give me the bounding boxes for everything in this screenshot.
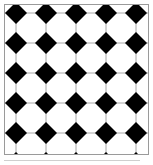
diamond-tile [65, 152, 87, 154]
diamond-tile [95, 92, 117, 114]
diamond-tile [5, 62, 27, 84]
diamond-tile [35, 122, 57, 144]
diamond-tile [65, 5, 87, 24]
tile-pattern-svg [5, 5, 148, 154]
diamond-tile [125, 62, 147, 84]
diamond-tile [35, 92, 57, 114]
diamond-tile [95, 62, 117, 84]
diamond-tile [5, 5, 27, 24]
diamond-tile [5, 122, 27, 144]
diamond-tile [125, 5, 147, 24]
diamond-tile [125, 92, 147, 114]
tile-pattern-figure [0, 0, 153, 165]
tile-field-frame [4, 4, 149, 155]
diamond-tile [5, 152, 27, 154]
diamond-tile [35, 152, 57, 154]
diamond-tile [65, 92, 87, 114]
diamond-tile [95, 152, 117, 154]
diamond-tile [95, 32, 117, 54]
diamond-tile [5, 92, 27, 114]
diamond-tile [35, 5, 57, 24]
diamond-tile [65, 62, 87, 84]
tile-surface [5, 5, 148, 154]
diamond-tile [125, 152, 147, 154]
diamond-tile [65, 32, 87, 54]
diamond-tile [95, 122, 117, 144]
diamond-tile [125, 32, 147, 54]
diamond-tile [35, 32, 57, 54]
diamond-tile [125, 122, 147, 144]
diamond-tile [5, 32, 27, 54]
diamond-tile [65, 122, 87, 144]
diamond-tile [95, 5, 117, 24]
bottom-edge-sliver [4, 160, 140, 161]
diamond-tile [35, 62, 57, 84]
